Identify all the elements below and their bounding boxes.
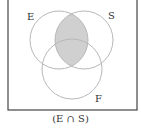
caption: (E ∩ S): [0, 113, 141, 124]
label-f: F: [95, 93, 102, 104]
label-e: E: [27, 11, 34, 22]
venn-diagram: E S F: [0, 0, 141, 131]
label-s: S: [108, 10, 115, 21]
